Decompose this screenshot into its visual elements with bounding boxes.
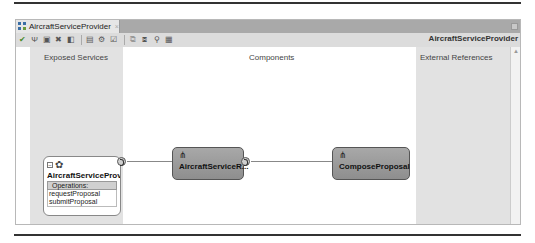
close-icon[interactable]: × [115, 23, 119, 30]
tab-aircraft-service-provider[interactable]: AircraftServiceProvider × [16, 20, 120, 33]
operations-header: Operations: [47, 181, 117, 190]
components-lane: Components [123, 47, 416, 224]
settings-icon[interactable]: ⚙ [97, 36, 106, 45]
composite-title: AircraftServiceProvider [429, 34, 518, 43]
service-name: AircraftServiceProvi... [44, 170, 120, 181]
save-icon[interactable]: ▣ [42, 36, 51, 45]
exposed-service-card[interactable]: − ✿ AircraftServiceProvi... Operations: … [43, 156, 121, 216]
components-title: Components [249, 53, 294, 62]
top-rule [14, 2, 521, 4]
toolbar-separator [81, 35, 82, 45]
paste-icon[interactable]: ⧈ [140, 36, 149, 45]
test-icon[interactable]: ▤ [85, 36, 94, 45]
collapse-icon[interactable]: − [47, 162, 53, 168]
service-header: − ✿ [44, 157, 120, 170]
layout-icon[interactable]: ▦ [164, 36, 173, 45]
external-references-lane: External References [416, 47, 510, 224]
bottom-rule [14, 234, 521, 236]
maximize-button[interactable] [511, 23, 518, 30]
operations-list: requestProposal submitProposal [47, 190, 117, 207]
toolbar-separator [124, 35, 125, 45]
operation-item[interactable]: requestProposal [49, 190, 115, 198]
canvas-margin [16, 47, 30, 224]
validate-icon[interactable]: ✔ [18, 36, 27, 45]
clipboard-icon[interactable]: ☑ [109, 36, 118, 45]
composite-editor-window: AircraftServiceProvider × ✔ Ψ ▣ ✖ ◧ ▤ ⚙ … [15, 19, 521, 225]
bpel-process-icon: ⋔ [179, 150, 187, 160]
tab-label: AircraftServiceProvider [29, 22, 111, 31]
wsdl-icon[interactable]: Ψ [30, 36, 39, 45]
component-reference-port[interactable] [241, 157, 250, 166]
service-port[interactable] [117, 157, 126, 166]
tab-bar: AircraftServiceProvider × [16, 20, 520, 33]
copy-icon[interactable]: ⧉ [128, 36, 137, 45]
component-compose-proposal[interactable]: ⋔ ComposeProposal [332, 147, 410, 180]
wire-service-to-component[interactable] [127, 161, 174, 162]
vertical-scrollbar[interactable]: ▲ [510, 47, 520, 224]
bpel-process-icon: ⋔ [339, 150, 347, 160]
operation-item[interactable]: submitProposal [49, 198, 115, 206]
component-name: AircraftServiceR... [179, 162, 248, 171]
composite-icon [18, 22, 27, 31]
external-references-title: External References [420, 53, 492, 62]
component-aircraft-service[interactable]: ⋔ AircraftServiceR... [172, 147, 244, 180]
delete-icon[interactable]: ✖ [54, 36, 63, 45]
deploy-icon[interactable]: ◧ [66, 36, 75, 45]
find-icon[interactable]: ⚲ [152, 36, 161, 45]
component-name: ComposeProposal [339, 162, 410, 171]
toolbar: ✔ Ψ ▣ ✖ ◧ ▤ ⚙ ☑ ⧉ ⧈ ⚲ ▦ AircraftServiceP… [16, 33, 520, 47]
exposed-services-title: Exposed Services [44, 53, 108, 62]
wire-component-to-component[interactable] [251, 161, 333, 162]
scroll-up-icon[interactable]: ▲ [513, 48, 519, 54]
service-globe-icon: ✿ [55, 159, 63, 170]
